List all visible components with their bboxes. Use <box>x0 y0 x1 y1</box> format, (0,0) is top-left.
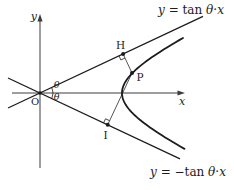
point-h-dot <box>121 52 125 56</box>
y-axis-label: y <box>30 10 38 23</box>
point-p-label: P <box>136 71 143 83</box>
asymptote-lower <box>8 78 180 159</box>
point-i-label: I <box>103 129 107 141</box>
figure-canvas: y x O θ θ H P I y = tan θ·x y = −tan θ·x <box>0 0 234 190</box>
x-axis-label: x <box>179 95 186 108</box>
point-o-dot <box>38 91 42 95</box>
point-i-dot <box>106 123 110 127</box>
figure-svg: y x O θ θ H P I y = tan θ·x y = −tan θ·x <box>0 0 234 190</box>
asymptote-upper <box>8 16 203 108</box>
point-p-dot <box>130 71 134 75</box>
upper-asymptote-equation: y = tan θ·x <box>157 3 224 17</box>
segment-ph <box>123 54 132 73</box>
segment-pi <box>108 73 132 125</box>
origin-label: O <box>31 96 39 107</box>
theta-upper-label: θ <box>54 79 60 90</box>
theta-lower-label: θ <box>54 91 60 102</box>
point-h-label: H <box>116 39 125 51</box>
y-axis-arrowhead-icon <box>37 14 42 22</box>
lower-asymptote-equation: y = −tan θ·x <box>149 165 226 179</box>
